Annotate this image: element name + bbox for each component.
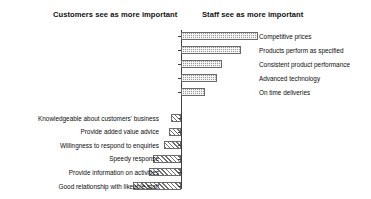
category-label-customers: Willingness to respond to enquiries bbox=[60, 142, 159, 150]
customers-column-heading: Customers see as more important bbox=[53, 10, 177, 19]
category-label-staff: Competitive prices bbox=[259, 33, 312, 41]
category-label-customers: Good relationship with likeable staff bbox=[59, 183, 159, 191]
bar-staff bbox=[181, 32, 258, 40]
bar-staff bbox=[181, 74, 217, 82]
axis-tick bbox=[178, 64, 181, 65]
category-label-customers: Provide information on activities bbox=[69, 169, 159, 177]
axis-tick bbox=[178, 50, 181, 51]
axis-tick bbox=[178, 172, 181, 173]
bar-staff bbox=[181, 88, 205, 96]
category-label-staff: On time deliveries bbox=[259, 89, 310, 97]
staff-column-heading: Staff see as more important bbox=[202, 10, 303, 19]
category-label-staff: Consistent product performance bbox=[259, 61, 350, 69]
axis-tick bbox=[178, 36, 181, 37]
diverging-bar-chart: Customers see as more important Staff se… bbox=[0, 0, 371, 199]
bar-staff bbox=[181, 46, 241, 54]
category-label-customers: Speedy response bbox=[109, 155, 159, 163]
category-label-staff: Products perform as specified bbox=[259, 47, 344, 55]
axis-tick bbox=[178, 145, 181, 146]
axis-tick bbox=[178, 78, 181, 79]
axis-tick bbox=[178, 159, 181, 160]
axis-tick bbox=[178, 132, 181, 133]
bar-staff bbox=[181, 60, 222, 68]
axis-tick bbox=[178, 118, 181, 119]
category-label-customers: Knowledgeable about customers' business bbox=[38, 115, 159, 123]
axis-tick bbox=[178, 92, 181, 93]
category-label-customers: Provide added value advice bbox=[80, 128, 159, 136]
axis-tick bbox=[178, 186, 181, 187]
category-label-staff: Advanced technology bbox=[259, 75, 320, 83]
